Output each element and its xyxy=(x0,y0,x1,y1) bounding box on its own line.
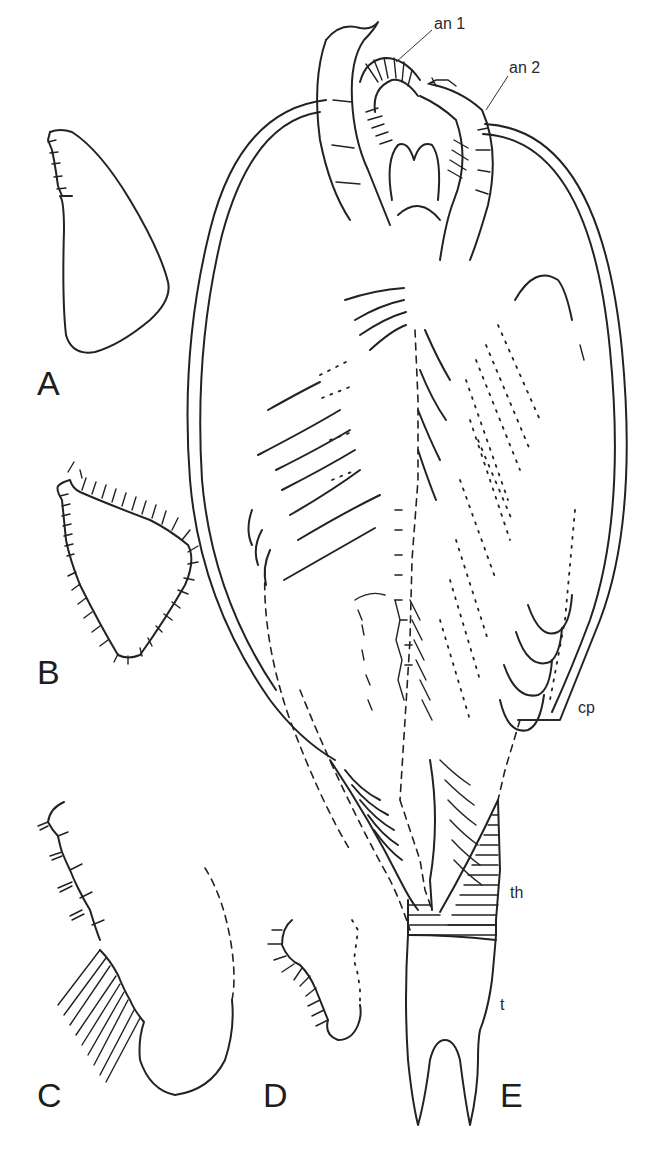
annotation-cp: cp xyxy=(578,700,595,716)
annotation-an1: an 1 xyxy=(434,16,465,32)
panel-b-drawing xyxy=(58,462,199,664)
panel-label-a: A xyxy=(37,366,60,400)
panel-label-b: B xyxy=(37,655,60,689)
figure-drawing xyxy=(0,0,648,1157)
panel-d-drawing xyxy=(268,920,361,1040)
annotation-an2: an 2 xyxy=(509,60,540,76)
figure: A B C D E an 1 an 2 cp th t xyxy=(0,0,648,1157)
panel-label-e: E xyxy=(500,1078,523,1112)
annotation-th: th xyxy=(510,885,523,901)
panel-a-drawing xyxy=(48,130,169,353)
panel-c-drawing xyxy=(38,802,234,1095)
annotation-t: t xyxy=(500,997,504,1013)
panel-e-drawing xyxy=(188,22,627,1125)
panel-label-c: C xyxy=(37,1078,62,1112)
panel-label-d: D xyxy=(263,1078,288,1112)
